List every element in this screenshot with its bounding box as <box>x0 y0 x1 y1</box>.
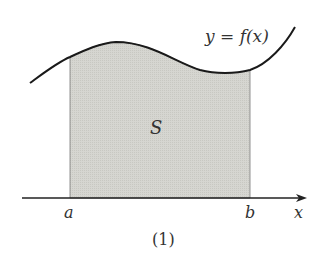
lower-bound-label: a <box>64 203 74 222</box>
figure-caption: (1) <box>152 230 175 249</box>
region-label: S <box>150 117 162 138</box>
axis-label: x <box>294 203 303 222</box>
curve-label: y = f(x) <box>204 26 269 46</box>
area-under-curve-diagram: y = f(x) S a b x (1) <box>0 0 327 271</box>
upper-bound-label: b <box>245 203 255 222</box>
